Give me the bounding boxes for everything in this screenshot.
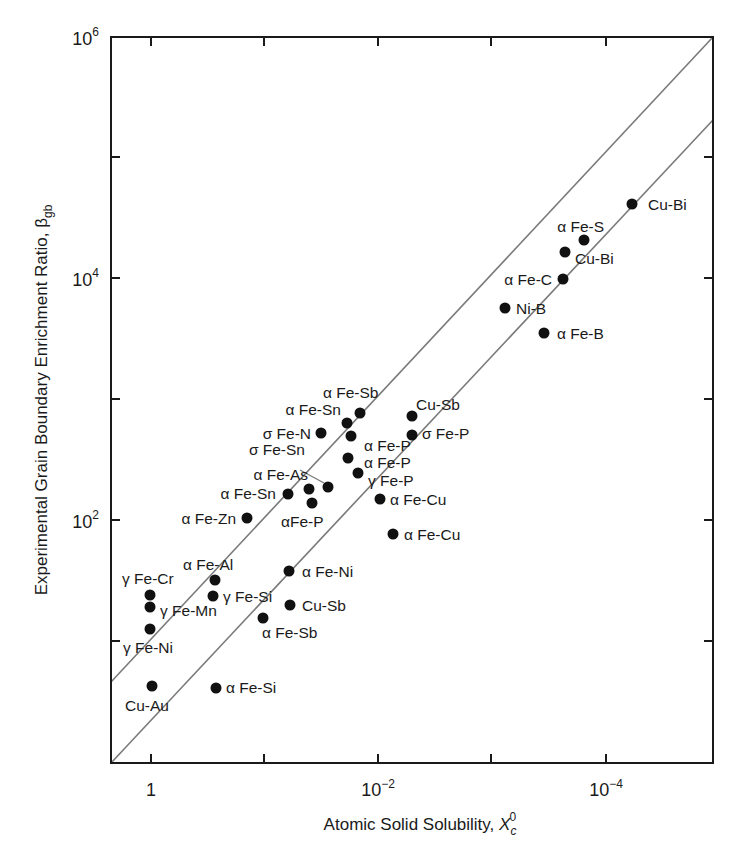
data-point <box>210 575 221 586</box>
data-point <box>284 566 295 577</box>
data-point <box>342 418 353 429</box>
x-axis-title-sup: 0 <box>509 810 516 824</box>
data-point-label: Cu-Bi <box>648 196 687 213</box>
data-point <box>558 274 569 285</box>
data-point <box>145 590 156 601</box>
y-tick-label: 104 <box>72 266 99 290</box>
data-point <box>145 602 156 613</box>
data-point-label: γ Fe-Cr <box>122 570 174 587</box>
data-point <box>307 498 318 509</box>
data-point-label: Ni-B <box>516 300 546 317</box>
data-point-label: σ Fe-Sn <box>249 441 305 458</box>
data-point-label: Cu-Sb <box>416 396 460 413</box>
data-point <box>343 453 354 464</box>
data-point <box>579 235 590 246</box>
data-point <box>242 513 253 524</box>
plot-frame <box>111 37 713 763</box>
data-point-label: α Fe-Cu <box>404 526 460 543</box>
data-point-label: α Fe-Cu <box>390 491 446 508</box>
data-point <box>258 613 269 624</box>
data-point-label: α Fe-S <box>557 218 604 235</box>
data-point-label: σ Fe-N <box>263 425 311 442</box>
data-point <box>208 591 219 602</box>
lower-bound-line <box>111 120 713 763</box>
data-point-label: α Fe-Sb <box>262 624 317 641</box>
x-tick-label: 1 <box>146 780 156 800</box>
x-tick-label: 10−4 <box>589 777 623 800</box>
data-point <box>304 484 315 495</box>
data-point <box>323 482 334 493</box>
y-axis-title-symbol: β <box>32 218 51 228</box>
x-tick-label: 10−2 <box>361 777 395 800</box>
data-point-label: α Fe-Zn <box>181 510 236 527</box>
scatter-chart: 110−210−4 106104102 Cu-Biα Fe-SCu-Biα Fe… <box>0 0 744 862</box>
y-tick-label: 106 <box>72 25 99 49</box>
y-axis-title-main: Experimental Grain Boundary Enrichment R… <box>32 228 51 596</box>
data-point-label: α Fe-P <box>364 454 411 471</box>
data-point <box>346 431 357 442</box>
data-point-label: Cu-Sb <box>302 597 346 614</box>
data-point <box>500 303 511 314</box>
data-point-label: α Fe-As <box>253 466 308 483</box>
data-point-label: γ Fe-Si <box>223 588 272 605</box>
data-point <box>147 681 158 692</box>
data-point-label: α Fe-B <box>557 325 604 342</box>
data-point-label: α Fe-Sb <box>323 384 378 401</box>
data-point <box>355 408 366 419</box>
data-point-label: α Fe-Sn <box>286 401 341 418</box>
data-point <box>353 468 364 479</box>
data-point <box>539 328 550 339</box>
x-axis-title: Atomic Solid Solubility, Xc0 <box>324 810 517 838</box>
data-point-label: Cu-Au <box>125 697 169 714</box>
data-point <box>283 489 294 500</box>
data-point <box>211 683 222 694</box>
y-axis-ticks: 106104102 <box>72 25 713 641</box>
data-point-label: α Fe-Ni <box>302 563 353 580</box>
data-point-label: α Fe-Al <box>183 556 233 573</box>
data-point <box>560 247 571 258</box>
data-point-label: Cu-Bi <box>575 250 614 267</box>
y-axis-title: Experimental Grain Boundary Enrichment R… <box>32 204 55 595</box>
data-point <box>375 494 386 505</box>
x-axis-title-sub: c <box>510 824 516 838</box>
y-tick-label: 102 <box>72 508 99 532</box>
data-point <box>627 199 638 210</box>
data-point-label: α Fe-Si <box>226 679 276 696</box>
data-point-label: σ Fe-P <box>422 425 469 442</box>
data-point <box>316 428 327 439</box>
data-point-label: γ Fe-Mn <box>160 602 217 619</box>
data-point-label: α Fe-C <box>504 271 552 288</box>
data-point-label: α Fe-P <box>364 437 411 454</box>
data-point <box>145 624 156 635</box>
point-labels: Cu-Biα Fe-SCu-Biα Fe-CNi-Bα Fe-Bα Fe-Sbα… <box>122 196 687 714</box>
reference-lines <box>111 37 713 763</box>
data-point-label: αFe-P <box>281 513 324 530</box>
y-axis-title-sub: gb <box>41 204 55 218</box>
x-axis-title-main: Atomic Solid Solubility, <box>324 815 499 834</box>
data-point-label: γ Fe-Ni <box>123 639 173 656</box>
data-point-label: γ Fe-P <box>368 472 414 489</box>
data-point <box>388 529 399 540</box>
upper-bound-line <box>111 37 713 682</box>
data-point-label: α Fe-Sn <box>221 485 276 502</box>
data-point <box>285 600 296 611</box>
